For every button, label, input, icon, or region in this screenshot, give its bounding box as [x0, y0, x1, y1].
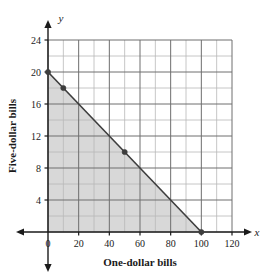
x-tick-label: 20 [74, 238, 84, 249]
data-point-marker [45, 69, 50, 74]
y-tick-label: 24 [31, 35, 41, 46]
x-tick-label: 40 [104, 238, 114, 249]
chart-figure: 020406080100120 4812162024 x y One-dolla… [0, 0, 272, 278]
data-point-marker [61, 85, 66, 90]
y-axis-title: Five-dollar bills [6, 98, 18, 173]
x-tick-label: 80 [166, 238, 176, 249]
x-axis-symbol: x [254, 226, 260, 238]
y-tick-label: 4 [36, 195, 41, 206]
x-tick-label: 0 [46, 238, 51, 249]
data-point-marker [122, 149, 127, 154]
x-tick-label: 60 [135, 238, 145, 249]
y-tick-label: 12 [31, 131, 41, 142]
y-tick-label: 16 [31, 99, 41, 110]
y-tick-label: 8 [36, 163, 41, 174]
y-axis-symbol: y [58, 12, 64, 24]
x-tick-label: 120 [225, 238, 240, 249]
y-tick-label: 20 [31, 67, 41, 78]
x-tick-label: 100 [194, 238, 209, 249]
linear-inequality-chart: 020406080100120 4812162024 x y One-dolla… [0, 0, 272, 278]
data-point-marker [199, 229, 204, 234]
x-axis-title: One-dollar bills [103, 256, 177, 268]
